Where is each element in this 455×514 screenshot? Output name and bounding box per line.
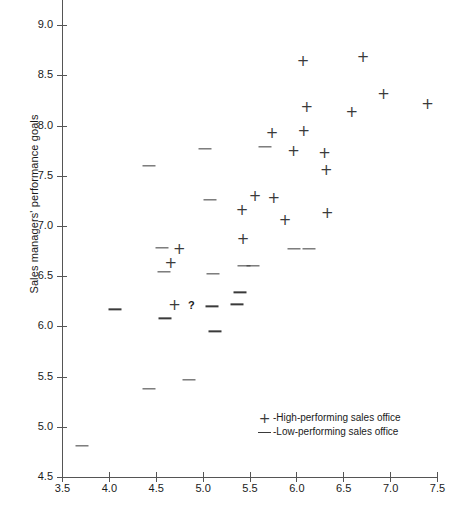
data-point-dash: [158, 271, 171, 272]
data-point-plus: +: [318, 145, 331, 160]
legend-label-high-performing: -High-performing sales office: [273, 411, 401, 425]
data-point-plus: +: [279, 212, 292, 227]
x-axis-tick-label: 6.5: [336, 482, 351, 494]
y-axis-tick-label: 8.0: [38, 119, 53, 131]
x-axis-tick: 3.5: [62, 472, 63, 482]
y-axis-title: Sales managers' performance goals: [28, 74, 40, 334]
data-point-dash: [204, 199, 217, 200]
y-axis-tick-label: 5.5: [38, 370, 53, 382]
data-point-plus: +: [300, 100, 313, 115]
x-axis-tick-label: 7.5: [430, 482, 445, 494]
y-axis-tick: 8.5: [57, 75, 67, 76]
data-point-dash: [75, 445, 88, 446]
y-axis-tick: 5.0: [57, 427, 67, 428]
plus-marker-icon: +: [258, 411, 271, 425]
data-point-dash: [143, 388, 156, 389]
data-point-dash: [109, 309, 122, 310]
x-axis-tick: 5.0: [203, 472, 204, 482]
data-point-dash: [258, 146, 271, 147]
data-point-plus: +: [236, 202, 249, 217]
x-axis-tick: 5.5: [250, 472, 251, 482]
data-point-plus: +: [345, 105, 358, 120]
data-point-dash: [302, 248, 315, 249]
y-axis-tick-label: 9.0: [38, 18, 53, 30]
data-point-plus: +: [237, 232, 250, 247]
data-point-dash: [208, 331, 221, 332]
legend-item-high-performing: + -High-performing sales office: [258, 411, 401, 425]
y-axis-tick-label: 6.5: [38, 269, 53, 281]
data-point-dash: [287, 248, 300, 249]
data-point-dash: [206, 306, 219, 307]
y-axis-tick: 6.5: [57, 276, 67, 277]
y-axis-tick-label: 6.0: [38, 319, 53, 331]
data-point-plus: +: [321, 205, 334, 220]
legend-item-low-performing: -Low-performing sales office: [258, 425, 401, 439]
x-axis-tick: 4.0: [109, 472, 110, 482]
data-point-dash: [199, 148, 212, 149]
data-point-plus: +: [249, 188, 262, 203]
y-axis-tick-label: 7.0: [38, 219, 53, 231]
data-point-dash: [237, 265, 250, 266]
data-point-plus: +: [421, 97, 434, 112]
y-axis-tick: 7.5: [57, 176, 67, 177]
x-axis-tick: 7.0: [390, 472, 391, 482]
y-axis-tick: 5.5: [57, 377, 67, 378]
x-axis-tick-label: 5.0: [195, 482, 210, 494]
y-axis-line: [62, 0, 63, 478]
data-point-plus: +: [168, 298, 181, 313]
y-axis-tick-label: 4.5: [38, 470, 53, 482]
x-axis-tick-label: 6.0: [289, 482, 304, 494]
scatter-plot-figure: Sales managers' performance goals 4.55.0…: [0, 0, 455, 514]
data-point-dash: [247, 265, 260, 266]
x-axis-tick-label: 4.0: [102, 482, 117, 494]
x-axis-tick: 6.5: [343, 472, 344, 482]
data-point-dash: [234, 292, 247, 293]
data-point-dash: [156, 247, 169, 248]
data-point-plus: +: [298, 123, 311, 138]
data-point-dash: [182, 379, 195, 380]
data-point-plus: +: [164, 256, 177, 271]
data-point-plus: +: [268, 190, 281, 205]
data-point-plus: +: [266, 125, 279, 140]
y-axis-tick: 9.0: [57, 25, 67, 26]
data-point-dash: [206, 273, 219, 274]
legend-label-low-performing: -Low-performing sales office: [273, 425, 398, 439]
x-axis-tick-label: 7.0: [383, 482, 398, 494]
x-axis-tick-label: 5.5: [242, 482, 257, 494]
data-point-plus: +: [377, 87, 390, 102]
y-axis-tick-label: 8.5: [38, 68, 53, 80]
data-point-dash: [143, 165, 156, 166]
data-point-plus: +: [320, 162, 333, 177]
y-axis-tick: 7.0: [57, 226, 67, 227]
y-axis-tick-label: 5.0: [38, 420, 53, 432]
plot-area: 4.55.05.56.06.57.07.58.08.59.0 3.54.04.5…: [62, 0, 437, 477]
x-axis-tick-label: 3.5: [55, 482, 70, 494]
x-axis-tick-label: 4.5: [149, 482, 164, 494]
y-axis-tick: 6.0: [57, 326, 67, 327]
data-point-dash: [159, 318, 172, 319]
y-axis-tick-label: 7.5: [38, 169, 53, 181]
data-point-dash: [231, 304, 244, 305]
chart-legend: + -High-performing sales office -Low-per…: [258, 411, 401, 439]
data-point-plus: +: [357, 50, 370, 65]
data-point-plus: +: [287, 143, 300, 158]
x-axis-tick: 4.5: [156, 472, 157, 482]
y-axis-tick: 8.0: [57, 126, 67, 127]
annotation-question-mark: ?: [188, 299, 195, 311]
x-axis-tick: 6.0: [296, 472, 297, 482]
data-point-plus: +: [173, 242, 186, 257]
x-axis-tick: 7.5: [437, 472, 438, 482]
data-point-plus: +: [297, 54, 310, 69]
